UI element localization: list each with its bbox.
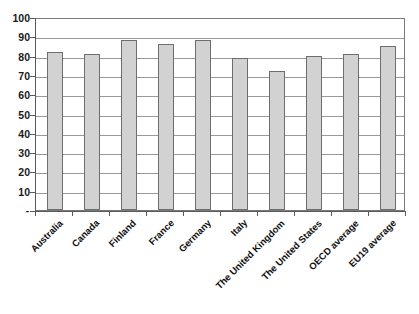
y-tick-label-wrap: 60	[0, 90, 30, 100]
y-tick-mark	[30, 37, 35, 38]
y-tick-label: 70	[4, 71, 30, 81]
y-tick-mark	[30, 172, 35, 173]
x-axis-label: Germany	[177, 218, 213, 254]
y-tick-mark	[30, 192, 35, 193]
y-tick-label: 80	[4, 52, 30, 62]
y-tick-label-wrap: 40	[0, 129, 30, 139]
y-tick-label: 90	[4, 32, 30, 42]
y-tick-label-wrap: 90	[0, 32, 30, 42]
x-axis-label: Canada	[70, 218, 101, 249]
bar	[269, 71, 285, 210]
y-tick-label-wrap: -	[0, 206, 30, 216]
y-tick-label-wrap: 70	[0, 71, 30, 81]
bar	[158, 44, 174, 210]
y-tick-label: 30	[4, 148, 30, 158]
x-axis-label: Australia	[29, 218, 65, 254]
x-tick-mark	[331, 212, 332, 216]
x-tick-mark	[109, 212, 110, 216]
x-tick-mark	[146, 212, 147, 216]
bar	[232, 58, 248, 210]
y-tick-label-wrap: 80	[0, 52, 30, 62]
x-tick-mark	[220, 212, 221, 216]
bar	[380, 46, 396, 210]
x-axis-label: France	[147, 218, 176, 247]
x-axis-label: The United Kingdom	[214, 218, 287, 291]
x-axis-label: Finland	[107, 218, 138, 249]
y-tick-label-wrap: 50	[0, 110, 30, 120]
x-axis-label: Italy	[229, 218, 250, 239]
x-tick-mark	[368, 212, 369, 216]
y-tick-label-wrap: 100	[0, 13, 30, 23]
x-tick-mark	[35, 212, 36, 216]
bar	[121, 40, 137, 210]
y-tick-label: 50	[4, 110, 30, 120]
bar	[47, 52, 63, 210]
y-tick-mark	[30, 134, 35, 135]
y-tick-mark	[30, 76, 35, 77]
y-tick-label-wrap: 30	[0, 148, 30, 158]
y-tick-label: 100	[4, 13, 30, 23]
y-tick-label-wrap: 20	[0, 167, 30, 177]
y-tick-mark	[30, 18, 35, 19]
bar	[84, 54, 100, 210]
y-tick-label: -	[3, 206, 30, 216]
gridline	[36, 38, 404, 39]
y-tick-mark	[30, 153, 35, 154]
y-tick-label: 10	[4, 187, 30, 197]
bar	[195, 40, 211, 210]
x-tick-mark	[257, 212, 258, 216]
bar-chart: -102030405060708090100 AustraliaCanadaFi…	[0, 0, 419, 314]
y-axis-line	[35, 18, 36, 212]
x-tick-mark	[72, 212, 73, 216]
y-tick-mark	[30, 57, 35, 58]
y-tick-label-wrap: 10	[0, 187, 30, 197]
x-tick-mark	[405, 212, 406, 216]
y-tick-label: 60	[4, 90, 30, 100]
y-tick-label: 20	[4, 167, 30, 177]
x-tick-mark	[294, 212, 295, 216]
y-tick-label: 40	[4, 129, 30, 139]
bar	[306, 56, 322, 210]
y-tick-mark	[30, 95, 35, 96]
y-tick-mark	[30, 115, 35, 116]
x-tick-mark	[183, 212, 184, 216]
bar	[343, 54, 359, 210]
plot-area	[35, 18, 405, 211]
